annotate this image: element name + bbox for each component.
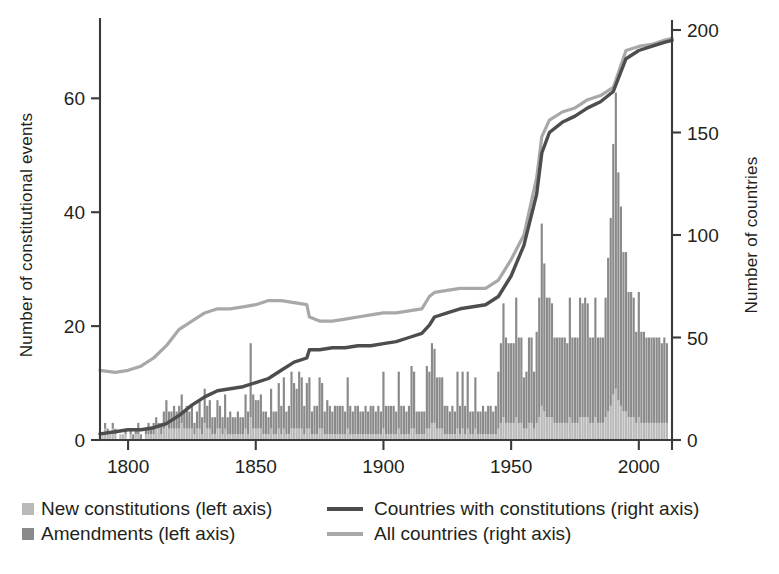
- bar-amendments: [536, 332, 538, 423]
- bar-new-constitutions: [635, 423, 637, 440]
- bar-new-constitutions: [181, 423, 183, 440]
- bar-amendments: [342, 406, 344, 434]
- bar-amendments: [352, 412, 354, 435]
- bar-new-constitutions: [252, 429, 254, 440]
- bar-amendments: [622, 252, 624, 411]
- bar-amendments: [250, 343, 252, 417]
- legend-item-all-countries[interactable]: All countries (right axis): [327, 524, 762, 543]
- bar-amendments: [349, 406, 351, 434]
- legend-item-amendments[interactable]: Amendments (left axis): [22, 524, 327, 543]
- bar-new-constitutions: [462, 429, 464, 440]
- bar-amendments: [382, 372, 384, 429]
- bar-new-constitutions: [607, 412, 609, 440]
- legend-item-new-constitutions[interactable]: New constitutions (left axis): [22, 499, 327, 518]
- bar-new-constitutions: [502, 417, 504, 440]
- bar-new-constitutions: [510, 423, 512, 440]
- bar-amendments: [400, 406, 402, 434]
- bar-amendments: [617, 172, 619, 400]
- bar-amendments: [265, 412, 267, 435]
- bar-amendments: [193, 423, 195, 434]
- bar-amendments: [451, 406, 453, 434]
- bar-amendments: [518, 338, 520, 423]
- bar-new-constitutions: [431, 423, 433, 440]
- bar-new-constitutions: [543, 412, 545, 440]
- bar-amendments: [456, 372, 458, 429]
- bar-amendments: [216, 400, 218, 428]
- bar-new-constitutions: [308, 429, 310, 440]
- bar-new-constitutions: [216, 429, 218, 440]
- bar-new-constitutions: [541, 406, 543, 440]
- bar-amendments: [548, 298, 550, 418]
- bar-new-constitutions: [163, 429, 165, 440]
- bar-amendments: [592, 338, 594, 423]
- bar-new-constitutions: [183, 429, 185, 440]
- bar-new-constitutions: [204, 423, 206, 440]
- bar-new-constitutions: [505, 423, 507, 440]
- bar-amendments: [582, 303, 584, 417]
- bar-new-constitutions: [625, 412, 627, 440]
- bar-amendments: [232, 417, 234, 434]
- bar-amendments: [510, 343, 512, 423]
- bar-amendments: [635, 332, 637, 423]
- bar-amendments: [344, 412, 346, 435]
- bar-new-constitutions: [155, 429, 157, 440]
- bar-amendments: [204, 389, 206, 423]
- bar-amendments: [329, 406, 331, 434]
- bar-amendments: [502, 303, 504, 417]
- bar-new-constitutions: [610, 406, 612, 440]
- bar-new-constitutions: [525, 429, 527, 440]
- bar-new-constitutions: [319, 429, 321, 440]
- bar-amendments: [298, 372, 300, 429]
- bar-amendments: [229, 412, 231, 435]
- bar-amendments: [663, 338, 665, 423]
- bar-amendments: [497, 372, 499, 429]
- bar-amendments: [541, 224, 543, 406]
- bar-amendments: [403, 406, 405, 434]
- bar-amendments: [658, 338, 660, 423]
- bar-new-constitutions: [546, 417, 548, 440]
- bar-new-constitutions: [579, 417, 581, 440]
- bar-amendments: [607, 258, 609, 412]
- bar-amendments: [324, 412, 326, 435]
- bar-new-constitutions: [589, 423, 591, 440]
- bar-amendments: [367, 412, 369, 435]
- x-tick-label: 2000: [618, 456, 660, 477]
- bar-new-constitutions: [173, 429, 175, 440]
- bar-new-constitutions: [206, 429, 208, 440]
- bar-amendments: [273, 412, 275, 435]
- bar-new-constitutions: [456, 429, 458, 440]
- bar-amendments: [165, 400, 167, 423]
- bar-amendments: [405, 412, 407, 435]
- bar-new-constitutions: [244, 429, 246, 440]
- bar-amendments: [275, 412, 277, 435]
- bar-amendments: [559, 338, 561, 423]
- bar-amendments: [209, 400, 211, 428]
- legend-label-all-countries: All countries (right axis): [374, 524, 571, 543]
- bar-new-constitutions: [564, 423, 566, 440]
- bar-new-constitutions: [648, 423, 650, 440]
- bar-amendments: [242, 417, 244, 434]
- bar-new-constitutions: [622, 412, 624, 440]
- bar-new-constitutions: [602, 423, 604, 440]
- bar-new-constitutions: [176, 429, 178, 440]
- bar-amendments: [375, 412, 377, 435]
- bar-new-constitutions: [650, 423, 652, 440]
- bar-new-constitutions: [290, 429, 292, 440]
- bar-amendments: [423, 412, 425, 435]
- bar-amendments: [490, 406, 492, 434]
- bar-new-constitutions: [594, 417, 596, 440]
- bar-amendments: [533, 372, 535, 429]
- x-tick-label: 1850: [235, 456, 277, 477]
- legend-item-countries-with-constitutions[interactable]: Countries with constitutions (right axis…: [327, 499, 762, 518]
- bar-new-constitutions: [617, 400, 619, 440]
- legend-swatch-new-constitutions: [22, 503, 34, 515]
- bar-amendments: [326, 400, 328, 434]
- bar-amendments: [296, 389, 298, 429]
- bar-amendments: [564, 338, 566, 423]
- x-tick-label: 1800: [107, 456, 149, 477]
- x-tick-label: 1950: [490, 456, 532, 477]
- bar-new-constitutions: [656, 423, 658, 440]
- bar-amendments: [561, 338, 563, 423]
- bar-new-constitutions: [398, 429, 400, 440]
- bar-amendments: [474, 377, 476, 428]
